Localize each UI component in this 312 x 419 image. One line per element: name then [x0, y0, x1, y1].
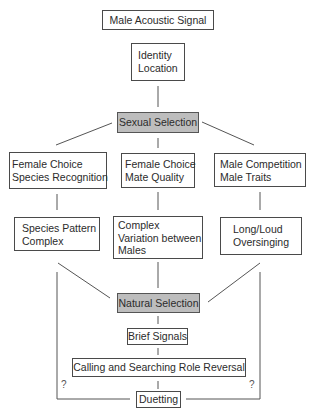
- node-identity-location: Identity Location: [131, 43, 185, 81]
- node-line: Male Competition: [220, 158, 300, 171]
- node-line: Female Choice: [125, 158, 191, 171]
- node-species-pattern: Species Pattern Complex: [14, 217, 100, 251]
- node-line: Males: [118, 244, 198, 257]
- node-line: Long/Loud: [233, 223, 289, 236]
- node-label: Duetting: [139, 393, 178, 406]
- node-line: Species Recognition: [12, 171, 104, 184]
- node-line: Mate Quality: [125, 171, 191, 184]
- node-brief-signals: Brief Signals: [127, 328, 188, 345]
- node-label: Male Acoustic Signal: [110, 14, 207, 27]
- uncertain-mark-left: ?: [61, 379, 67, 390]
- node-sexual-selection: Sexual Selection: [117, 112, 199, 133]
- node-female-choice-mate: Female Choice Mate Quality: [121, 153, 195, 188]
- node-role-reversal: Calling and Searching Role Reversal: [72, 358, 246, 377]
- node-line: Oversinging: [233, 236, 289, 249]
- node-natural-selection: Natural Selection: [117, 293, 200, 313]
- uncertain-mark-right: ?: [249, 379, 255, 390]
- node-label: Calling and Searching Role Reversal: [73, 361, 245, 374]
- node-line: Location: [138, 62, 178, 75]
- node-label: Brief Signals: [128, 330, 187, 343]
- edge-species-natural: [58, 263, 110, 298]
- node-line: Variation between: [118, 232, 198, 245]
- node-line: Complex: [118, 219, 198, 232]
- node-female-choice-species: Female Choice Species Recognition: [9, 152, 107, 189]
- node-line: Female Choice: [12, 158, 104, 171]
- edge-left-bracket: [57, 272, 130, 399]
- edge-sexual-left: [56, 123, 112, 145]
- node-line: Male Traits: [220, 171, 300, 184]
- diagram-canvas: Male Acoustic Signal Identity Location S…: [0, 0, 312, 419]
- node-complex-variation: Complex Variation between Males: [113, 216, 203, 259]
- edge-long-natural: [208, 263, 260, 302]
- node-male-acoustic-signal: Male Acoustic Signal: [102, 10, 214, 30]
- edge-sexual-right: [202, 122, 254, 145]
- node-label: Natural Selection: [119, 297, 199, 310]
- node-line: Complex: [22, 235, 92, 248]
- node-male-competition: Male Competition Male Traits: [214, 153, 306, 187]
- node-long-loud: Long/Loud Oversinging: [220, 217, 302, 255]
- node-label: Sexual Selection: [119, 116, 197, 129]
- node-line: Identity: [138, 49, 178, 62]
- node-line: Species Pattern: [22, 222, 92, 235]
- node-duetting: Duetting: [136, 391, 181, 408]
